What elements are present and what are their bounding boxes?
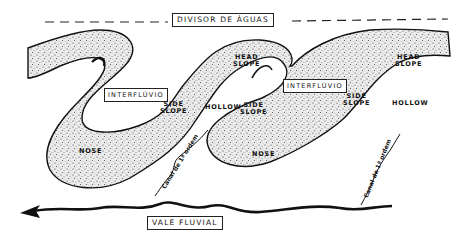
head-slope-label-right: HEAD SLOPE (395, 54, 422, 68)
river-line (34, 202, 392, 212)
divisor-de-aguas-label: DIVISOR DE ÁGUAS (172, 13, 274, 27)
side-slope-label-3: SIDE SLOPE (343, 93, 370, 107)
hollow-label-right: HOLLOW (392, 100, 429, 107)
interfluvio-label-right: INTERFLÚVIO (283, 79, 347, 93)
nose-label-left: NOSE (79, 148, 102, 155)
side-slope-label-2: SIDE SLOPE (240, 102, 267, 116)
vale-fluvial-label: VALE FLUVIAL (147, 216, 223, 230)
side-slope-label-1: SIDE SLOPE (160, 101, 187, 115)
nose-label-right: NOSE (252, 151, 275, 158)
landform-diagram (0, 0, 453, 240)
head-slope-label-left: HEAD SLOPE (233, 54, 260, 68)
hollow-label-left: HOLLOW (205, 104, 242, 111)
hollow-head-mark (92, 58, 104, 66)
interfluvio-label-left: INTERFLÚVIO (104, 88, 168, 102)
